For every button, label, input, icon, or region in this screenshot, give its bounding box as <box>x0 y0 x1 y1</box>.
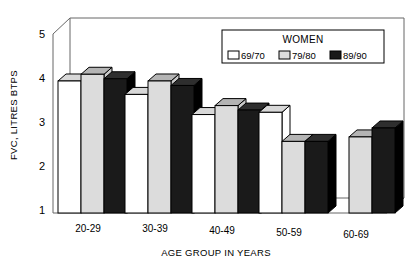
bar-front-face <box>215 106 238 213</box>
bar-front-face <box>282 141 305 213</box>
x-category-50-59: 50-59 <box>276 227 302 238</box>
y-tick-4: 4 <box>39 72 45 84</box>
legend-swatch-69-70 <box>228 51 239 59</box>
bar-front-face <box>192 115 215 213</box>
bar-front-face <box>259 112 282 213</box>
y-tick-1: 1 <box>39 204 45 216</box>
legend-swatch-79-80 <box>279 51 290 59</box>
bar-front-face <box>81 74 104 213</box>
legend: WOMEN 69/70 79/80 89/90 <box>222 30 384 63</box>
legend-label-79-80: 79/80 <box>292 50 316 61</box>
legend-item-89-90[interactable]: 89/90 <box>330 50 367 61</box>
x-axis-title: AGE GROUP IN YEARS <box>161 247 271 258</box>
y-tick-5: 5 <box>39 28 45 40</box>
bar-50-59-89/90[interactable] <box>305 134 336 213</box>
bar-chart-svg: 5 4 3 2 1 FVC, LITRES BTPS 20-29 30-39 4… <box>0 0 419 270</box>
bar-front-face <box>372 128 395 213</box>
x-category-60-69: 60-69 <box>343 229 369 240</box>
legend-label-89-90: 89/90 <box>343 50 367 61</box>
bar-front-face <box>148 81 171 213</box>
legend-item-79-80[interactable]: 79/80 <box>279 50 316 61</box>
x-category-30-39: 30-39 <box>142 223 168 234</box>
bar-front-face <box>238 110 261 213</box>
bar-front-face <box>125 94 148 213</box>
bar-front-face <box>104 79 127 213</box>
y-tick-3: 3 <box>39 116 45 128</box>
bar-front-face <box>58 81 81 213</box>
y-axis-title: FVC, LITRES BTPS <box>8 70 19 160</box>
legend-swatch-89-90 <box>330 51 341 59</box>
bar-front-face <box>349 137 372 213</box>
bar-60-69-89/90[interactable] <box>372 121 403 213</box>
y-tick-2: 2 <box>39 160 45 172</box>
bars-layer <box>58 67 403 213</box>
legend-title: WOMEN <box>283 34 324 45</box>
chart-container: 5 4 3 2 1 FVC, LITRES BTPS 20-29 30-39 4… <box>0 0 419 270</box>
x-axis-categories: 20-29 30-39 40-49 50-59 60-69 <box>75 223 369 240</box>
x-category-20-29: 20-29 <box>75 223 101 234</box>
legend-item-69-70[interactable]: 69/70 <box>228 50 265 61</box>
bar-side-face <box>328 134 336 213</box>
y-axis-ticks: 5 4 3 2 1 <box>39 28 45 216</box>
bar-front-face <box>305 141 328 213</box>
bar-side-face <box>395 121 403 213</box>
x-category-40-49: 40-49 <box>209 225 235 236</box>
bar-front-face <box>171 85 194 213</box>
legend-label-69-70: 69/70 <box>241 50 265 61</box>
